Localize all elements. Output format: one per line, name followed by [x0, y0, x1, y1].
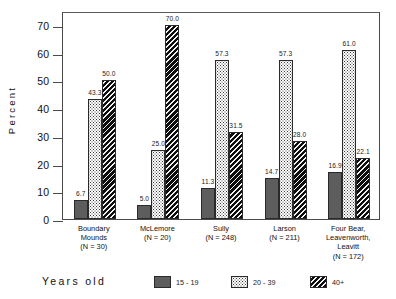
- x-axis-category-label: Boundary Mounds (N = 30): [62, 224, 126, 252]
- bar-value-label: 16.9: [329, 162, 342, 169]
- bar-value-label: 31.5: [229, 122, 242, 129]
- legend-item-40-plus: 40+: [310, 276, 344, 288]
- y-axis-tick-label: 70: [21, 20, 49, 32]
- bar-group: 6.743.350.0: [63, 13, 127, 219]
- bar-20-39: 61.0: [342, 50, 356, 219]
- legend-swatch-40-plus: [310, 276, 327, 288]
- bar-value-label: 57.3: [215, 50, 228, 57]
- bar-value-label: 50.0: [102, 70, 115, 77]
- legend-title: Years old: [42, 275, 106, 287]
- y-axis-title-text: Percent: [6, 86, 17, 134]
- bar-group: 16.961.022.1: [317, 13, 381, 219]
- x-axis-category-label: McLemore (N = 20): [126, 224, 190, 242]
- x-axis-category-label: Sully (N = 248): [189, 224, 253, 242]
- bar-value-label: 25.0: [152, 140, 165, 147]
- legend-item-15-19: 15 - 19: [154, 276, 198, 288]
- bar-40: 28.0: [293, 141, 307, 219]
- y-axis-tick: [53, 193, 63, 194]
- y-axis-title: Percent: [2, 50, 20, 170]
- chart-legend: Years old 15 - 19 20 - 39 40+: [0, 272, 396, 296]
- bar-20-39: 57.3: [215, 60, 229, 219]
- y-axis-tick: [53, 82, 63, 83]
- y-axis-tick: [53, 27, 63, 28]
- bar-value-label: 14.7: [265, 168, 278, 175]
- x-axis-category-label: Larson (N = 211): [253, 224, 317, 242]
- bar-value-label: 57.3: [279, 50, 292, 57]
- bar-value-label: 43.3: [88, 89, 101, 96]
- plot-area: 0102030405060706.743.350.05.025.070.011.…: [62, 12, 380, 220]
- bar-40: 22.1: [356, 158, 370, 219]
- bar-40: 70.0: [165, 25, 179, 219]
- y-axis-tick: [53, 138, 63, 139]
- bar-value-label: 61.0: [343, 40, 356, 47]
- legend-label-40-plus: 40+: [332, 278, 344, 287]
- legend-swatch-15-19: [154, 276, 171, 288]
- y-axis-tick-label: 60: [21, 48, 49, 60]
- bar-15-19: 11.3: [201, 188, 215, 219]
- y-axis-tick: [53, 110, 63, 111]
- y-axis-tick-label: 50: [21, 75, 49, 87]
- y-axis-tick: [53, 166, 63, 167]
- bar-20-39: 57.3: [279, 60, 293, 219]
- bar-value-label: 70.0: [166, 15, 179, 22]
- y-axis-tick-label: 0: [21, 214, 49, 226]
- y-axis-tick-label: 30: [21, 131, 49, 143]
- bar-15-19: 5.0: [137, 205, 151, 219]
- y-axis-tick-label: 10: [21, 186, 49, 198]
- bar-value-label: 22.1: [357, 148, 370, 155]
- bar-group: 11.357.331.5: [190, 13, 254, 219]
- x-axis-category-label: Four Bear, Leavenworth, Leavitt (N = 172…: [316, 224, 380, 261]
- legend-item-20-39: 20 - 39: [231, 276, 275, 288]
- bar-chart: Percent 0102030405060706.743.350.05.025.…: [0, 0, 396, 299]
- bar-15-19: 16.9: [328, 172, 342, 219]
- legend-label-20-39: 20 - 39: [253, 278, 275, 287]
- legend-label-15-19: 15 - 19: [176, 278, 198, 287]
- y-axis-tick-label: 40: [21, 103, 49, 115]
- bar-value-label: 5.0: [140, 195, 149, 202]
- bar-40: 50.0: [102, 80, 116, 219]
- bar-value-label: 11.3: [202, 178, 215, 185]
- legend-swatch-20-39: [231, 276, 248, 288]
- bar-20-39: 25.0: [151, 150, 165, 219]
- bar-group: 14.757.328.0: [254, 13, 318, 219]
- plot-inner: 0102030405060706.743.350.05.025.070.011.…: [63, 13, 379, 219]
- bar-20-39: 43.3: [88, 99, 102, 219]
- bar-group: 5.025.070.0: [127, 13, 191, 219]
- bar-40: 31.5: [229, 132, 243, 219]
- y-axis-tick-label: 20: [21, 159, 49, 171]
- y-axis-tick: [53, 221, 63, 222]
- bar-15-19: 6.7: [74, 200, 88, 219]
- bar-15-19: 14.7: [265, 178, 279, 219]
- bar-value-label: 28.0: [293, 131, 306, 138]
- y-axis-tick: [53, 55, 63, 56]
- bar-value-label: 6.7: [76, 190, 85, 197]
